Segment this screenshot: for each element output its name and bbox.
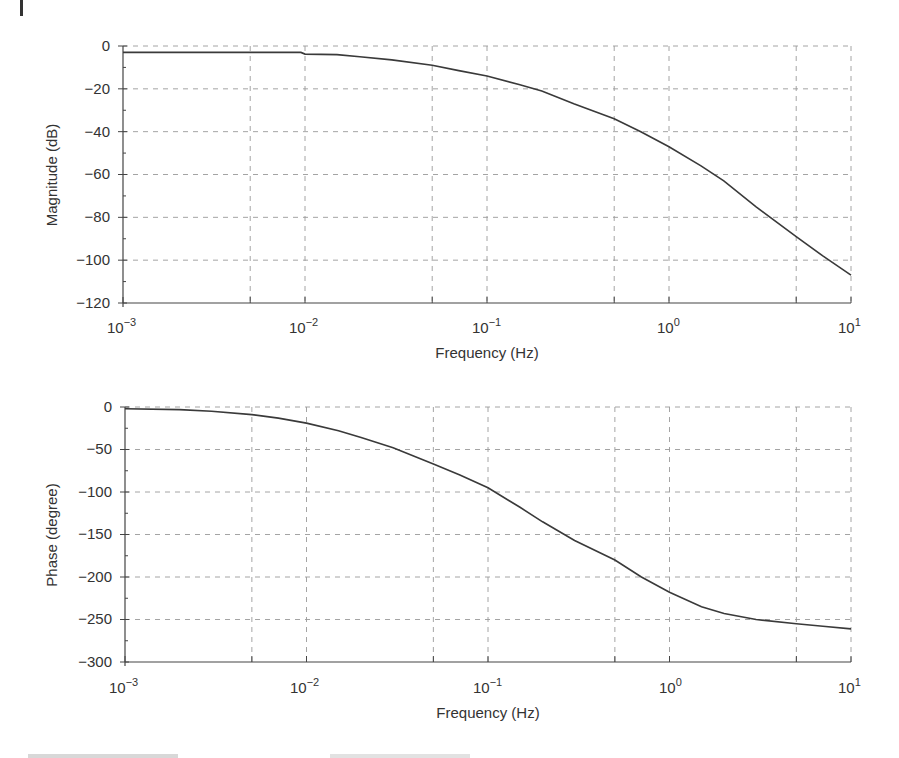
y-tick-label: −150	[78, 525, 112, 542]
magnitude-plot: 0 −20 −40 −60 −80 −100 −120 10−3 10−2 10…	[43, 37, 861, 361]
y-tick-label: −120	[76, 294, 110, 311]
phase-axes	[120, 407, 851, 666]
y-tick-label: −100	[76, 251, 110, 268]
x-tick-label: 10−3	[109, 676, 138, 696]
magnitude-axes	[118, 46, 851, 307]
x-tick-label: 10−1	[472, 316, 501, 336]
x-tick-label: 10−2	[289, 316, 318, 336]
y-tick-label: −40	[85, 123, 110, 140]
phase-y-axis-title: Phase (degree)	[43, 483, 60, 586]
magnitude-curve	[123, 52, 851, 275]
y-tick-label: −100	[78, 483, 112, 500]
x-tick-label: 10−1	[473, 676, 502, 696]
y-tick-label: −250	[78, 610, 112, 627]
x-tick-label: 100	[659, 676, 682, 696]
y-tick-label: −20	[85, 80, 110, 97]
y-tick-label: −60	[85, 165, 110, 182]
y-tick-label: −300	[78, 653, 112, 670]
phase-x-tick-labels: 10−3 10−2 10−1 100 101	[109, 676, 861, 696]
x-tick-label: 101	[838, 316, 861, 336]
phase-y-tick-labels: 0 −50 −100 −150 −200 −250 −300	[78, 398, 112, 670]
magnitude-x-axis-title: Frequency (Hz)	[435, 344, 538, 361]
y-tick-label: −200	[78, 568, 112, 585]
magnitude-y-axis-title: Magnitude (dB)	[43, 124, 60, 227]
x-tick-label: 101	[838, 676, 861, 696]
y-tick-label: 0	[102, 37, 110, 54]
magnitude-grid	[123, 46, 851, 303]
phase-grid	[125, 407, 851, 662]
magnitude-x-tick-labels: 10−3 10−2 10−1 100 101	[107, 316, 861, 336]
x-tick-label: 10−3	[107, 316, 136, 336]
y-tick-label: 0	[104, 398, 112, 415]
magnitude-y-tick-labels: 0 −20 −40 −60 −80 −100 −120	[76, 37, 110, 311]
phase-plot: 0 −50 −100 −150 −200 −250 −300 10−3 10−2…	[43, 398, 861, 721]
bode-plot-figure: 0 −20 −40 −60 −80 −100 −120 10−3 10−2 10…	[0, 0, 899, 758]
x-tick-label: 10−2	[290, 676, 319, 696]
phase-x-axis-title: Frequency (Hz)	[436, 704, 539, 721]
figure-caption-cropped	[28, 754, 470, 758]
x-tick-label: 100	[657, 316, 680, 336]
y-tick-label: −80	[85, 208, 110, 225]
y-tick-label: −50	[87, 440, 112, 457]
